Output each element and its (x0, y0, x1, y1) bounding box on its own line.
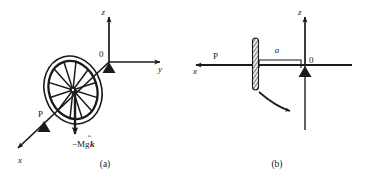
panel-b-x-axis: x (192, 65, 352, 76)
spinning-wheel (35, 48, 111, 131)
weight-force-magnitude: −Mg (72, 139, 90, 149)
pivot-label-a: P (38, 109, 43, 119)
caption-b: (b) (271, 159, 282, 170)
panel-a-y-axis: y (109, 62, 162, 74)
weight-force-unit-vector: k (90, 139, 95, 149)
pivot-triangle-a (38, 121, 51, 132)
dimension-a-label: a (275, 45, 280, 55)
panel-a: z y x 0 (17, 7, 162, 170)
z-axis-label: z (101, 7, 106, 17)
x-axis-label-b: x (192, 66, 197, 76)
disk-edge-on (253, 38, 259, 90)
panel-b: x P z 0 a (192, 7, 352, 170)
rotation-arrow (259, 92, 290, 111)
origin-pivot-triangle-a (103, 62, 116, 73)
physics-figure: z y x 0 (0, 0, 365, 177)
weight-force-hat: ̂ (87, 135, 91, 137)
y-axis-label: y (157, 64, 162, 74)
figure-root: z y x 0 (0, 0, 365, 177)
disk-body (253, 38, 259, 90)
origin-label-a: 0 (99, 49, 104, 59)
origin-label-b: 0 (309, 55, 314, 65)
weight-force-label: −Mgk (72, 139, 95, 149)
x-axis-label: x (17, 155, 22, 165)
z-axis-label-b: z (297, 7, 302, 17)
pivot-label-b: P (213, 51, 218, 61)
caption-a: (a) (100, 159, 111, 170)
